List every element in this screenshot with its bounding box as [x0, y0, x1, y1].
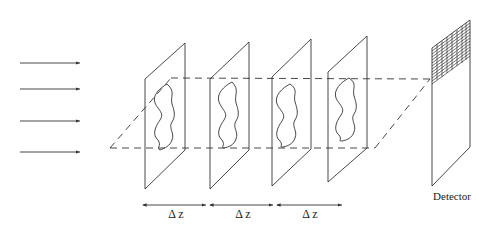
slice-plane-1: [145, 43, 185, 189]
spacing-label-1: Δ z: [168, 207, 183, 222]
detector-plane: [432, 20, 470, 186]
specimen-curve-icon: [335, 78, 356, 141]
spacing-label-3: Δ z: [302, 207, 317, 222]
slice-plane-4: [328, 36, 367, 182]
specimen-curve-icon: [218, 82, 238, 148]
multislice-diagram: [0, 0, 489, 229]
detector-label: Detector: [433, 190, 471, 202]
incident-beam-arrows: [20, 63, 80, 152]
slice-plane-3: [272, 39, 311, 186]
specimen-curve-icon: [154, 84, 174, 150]
slice-plane-2: [210, 42, 249, 189]
detector-grid-icon: [432, 23, 470, 84]
spacing-label-2: Δ z: [235, 207, 250, 222]
specimen-curve-icon: [276, 84, 297, 147]
propagation-volume-outline: [110, 78, 430, 148]
